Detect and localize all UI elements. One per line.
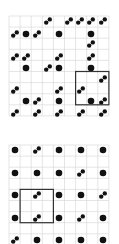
dot-piece[interactable] [56,170,63,177]
dot-piece[interactable] [56,237,63,244]
pair-piece[interactable] [33,30,41,38]
dot-piece[interactable] [56,98,63,105]
pair-piece[interactable] [44,64,52,72]
dot-piece[interactable] [88,98,95,105]
pair-piece[interactable] [77,169,85,177]
pair-piece[interactable] [77,86,85,94]
pair-piece[interactable] [22,53,30,61]
pair-piece[interactable] [99,17,107,25]
pair-piece[interactable] [87,53,95,61]
pair-piece[interactable] [11,236,19,244]
dot-piece[interactable] [78,237,85,244]
dot-piece[interactable] [56,31,63,38]
puzzle-1-grid [9,16,109,117]
dot-piece[interactable] [88,65,95,72]
highlight-box [20,189,53,222]
dot-piece[interactable] [56,65,63,72]
dot-piece[interactable] [12,192,19,199]
pair-piece[interactable] [33,146,41,154]
puzzle-2-grid [9,145,109,244]
pair-piece[interactable] [55,86,63,94]
pair-piece[interactable] [87,40,95,48]
dot-piece[interactable] [100,147,107,154]
pair-piece[interactable] [11,53,19,61]
dot-piece[interactable] [12,170,19,177]
dot-piece[interactable] [56,192,63,199]
puzzle-board [0,0,119,244]
dot-piece[interactable] [56,147,63,154]
pair-piece[interactable] [33,191,41,199]
dot-piece[interactable] [100,170,107,177]
pair-piece[interactable] [99,97,107,105]
pair-piece[interactable] [44,17,52,25]
pair-piece[interactable] [55,53,63,61]
dot-piece[interactable] [23,31,30,38]
pair-piece[interactable] [87,17,95,25]
dot-piece[interactable] [78,192,85,199]
dot-piece[interactable] [34,237,41,244]
pair-piece[interactable] [99,191,107,199]
pair-piece[interactable] [11,86,19,94]
dot-piece[interactable] [56,215,63,222]
dot-piece[interactable] [34,170,41,177]
dot-piece[interactable] [12,215,19,222]
dot-piece[interactable] [78,147,85,154]
dot-piece[interactable] [23,98,30,105]
pair-piece[interactable] [76,17,84,25]
pair-piece[interactable] [33,97,41,105]
dot-piece[interactable] [100,215,107,222]
dot-piece[interactable] [88,31,95,38]
dot-piece[interactable] [12,147,19,154]
pair-piece[interactable] [11,30,19,38]
pair-piece[interactable] [77,214,85,222]
dot-piece[interactable] [100,237,107,244]
pair-piece[interactable] [99,75,107,83]
pair-piece[interactable] [65,17,73,25]
dot-piece[interactable] [23,65,30,72]
pair-piece[interactable] [33,214,41,222]
